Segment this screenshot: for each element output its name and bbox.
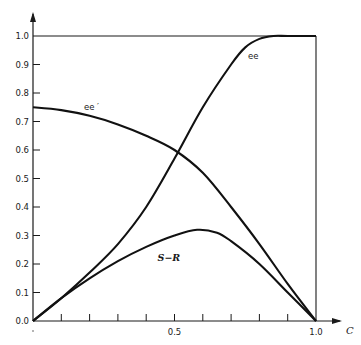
x-axis-title: C xyxy=(346,325,354,336)
y-tick-label: 1.0 xyxy=(15,31,29,41)
y-axis-ticks: 0.00.10.20.30.40.50.60.70.80.91.0 xyxy=(15,31,40,326)
y-tick-label: 0.6 xyxy=(15,145,29,155)
x-tick-label: 0.5 xyxy=(168,327,182,337)
axes: C xyxy=(30,12,354,336)
y-tick-label: 0.8 xyxy=(15,88,29,98)
y-tick-label: 0.1 xyxy=(15,288,29,298)
x-axis-arrow-icon xyxy=(332,318,342,324)
label-ee_prime: ee ′ xyxy=(84,102,99,112)
label-ee: ee xyxy=(248,51,258,61)
y-axis-arrow-icon xyxy=(30,12,36,22)
origin-dot xyxy=(32,330,34,332)
y-tick-label: 0.0 xyxy=(15,316,29,326)
y-tick-label: 0.9 xyxy=(15,60,29,70)
x-tick-label: 1.0 xyxy=(309,327,323,337)
y-tick-label: 0.5 xyxy=(15,174,29,184)
y-tick-label: 0.2 xyxy=(15,259,29,269)
y-tick-label: 0.7 xyxy=(15,117,29,127)
y-tick-label: 0.3 xyxy=(15,231,29,241)
curve-labels: eeee ′S−R xyxy=(84,51,259,263)
chart: C 0.00.10.20.30.40.50.60.70.80.91.0 0.51… xyxy=(0,0,361,345)
curve-S-R xyxy=(33,230,316,321)
label-S-R: S−R xyxy=(158,252,181,263)
curves xyxy=(33,36,316,321)
y-tick-label: 0.4 xyxy=(15,202,29,212)
x-axis-ticks: 0.51.0 xyxy=(32,314,323,337)
